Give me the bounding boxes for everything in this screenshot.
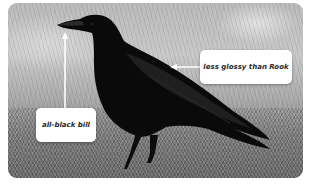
crow-silhouette — [8, 3, 303, 178]
callout-bill-label: all-black bill — [42, 121, 90, 129]
crow-photo — [8, 3, 303, 178]
callout-gloss: less glossy than Rook — [200, 50, 292, 84]
callout-gloss-label: less glossy than Rook — [203, 63, 288, 71]
callout-bill: all-black bill — [36, 108, 96, 142]
